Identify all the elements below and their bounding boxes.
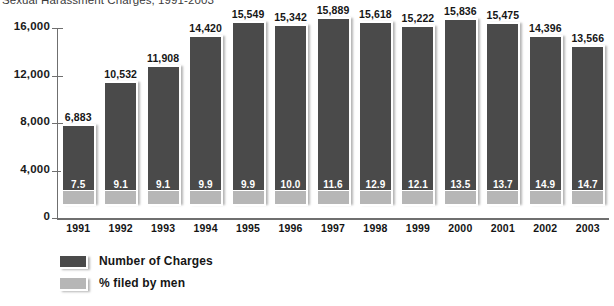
bar-group[interactable]: 13.715,475 <box>485 22 520 218</box>
bar-percent-label: 9.9 <box>241 179 255 190</box>
bar-segment-percent-filed-by-men[interactable] <box>487 190 518 204</box>
y-axis-label: 4,000 <box>4 163 50 175</box>
x-axis-label: 2001 <box>491 222 515 234</box>
x-axis-label: 2003 <box>576 222 600 234</box>
bar-value-label: 10,532 <box>104 68 137 80</box>
bar-value-label: 15,475 <box>486 9 519 21</box>
x-axis-label: 1993 <box>151 222 175 234</box>
bar-value-label: 11,908 <box>147 52 179 64</box>
y-axis-label: 16,000 <box>4 20 50 32</box>
bar-value-label: 14,420 <box>189 22 222 34</box>
bar-column[interactable]: 12.1 <box>400 25 435 206</box>
bar-value-label: 14,396 <box>529 22 562 34</box>
bar-value-label: 6,883 <box>65 111 92 123</box>
bar-segment-number-of-charges[interactable] <box>445 20 476 191</box>
bar-segment-number-of-charges[interactable] <box>360 23 391 191</box>
y-axis-label: 12,000 <box>4 68 50 80</box>
legend-swatch-light-icon <box>58 276 88 291</box>
bar-segment-number-of-charges[interactable] <box>487 24 518 191</box>
x-axis-label: 1992 <box>109 222 133 234</box>
bar-segment-percent-filed-by-men[interactable] <box>572 190 603 204</box>
y-axis-label: 8,000 <box>4 115 50 127</box>
bar-segment-number-of-charges[interactable] <box>530 37 561 191</box>
bar-segment-percent-filed-by-men[interactable] <box>275 190 306 204</box>
bar-percent-label: 11.6 <box>323 179 342 190</box>
bar-column[interactable]: 9.9 <box>188 35 223 206</box>
x-axis-label: 1999 <box>406 222 430 234</box>
bar-segment-percent-filed-by-men[interactable] <box>402 190 433 204</box>
legend-swatch-dark-icon <box>58 254 88 269</box>
x-axis-label: 1991 <box>66 222 90 234</box>
bar-percent-label: 13.7 <box>493 179 513 190</box>
bar-percent-label: 9.9 <box>199 179 213 190</box>
bar-segment-number-of-charges[interactable] <box>233 23 264 191</box>
x-axis-label: 2000 <box>448 222 472 234</box>
bar-segment-percent-filed-by-men[interactable] <box>105 190 136 204</box>
bar-group[interactable]: 14.914,396 <box>528 35 563 218</box>
bar-value-label: 15,618 <box>359 8 392 20</box>
x-axis-label: 2002 <box>533 222 557 234</box>
bar-percent-label: 10.0 <box>281 179 301 190</box>
bar-column[interactable]: 13.5 <box>443 18 478 206</box>
bar-percent-label: 14.7 <box>578 179 598 190</box>
x-axis-label: 1995 <box>236 222 260 234</box>
bar-segment-percent-filed-by-men[interactable] <box>148 190 179 204</box>
bar-group[interactable]: 13.515,836 <box>443 18 478 218</box>
bar-value-label: 15,342 <box>274 11 307 23</box>
bar-column[interactable]: 9.9 <box>231 21 266 206</box>
bar-segment-number-of-charges[interactable] <box>190 37 221 191</box>
bar-group[interactable]: 14.713,566 <box>570 45 605 218</box>
legend-label-percent-filed-by-men: % filed by men <box>99 276 185 290</box>
bar-segment-percent-filed-by-men[interactable] <box>190 190 221 204</box>
bar-column[interactable]: 7.5 <box>61 124 96 206</box>
bar-percent-label: 12.9 <box>366 179 386 190</box>
bar-column[interactable]: 14.9 <box>528 35 563 206</box>
bar-column[interactable]: 11.6 <box>316 17 351 206</box>
bar-percent-label: 12.1 <box>408 179 428 190</box>
bar-percent-label: 14.9 <box>535 179 555 190</box>
bar-segment-percent-filed-by-men[interactable] <box>530 190 561 204</box>
bar-group[interactable]: 7.56,883 <box>61 124 96 218</box>
bar-series-group: 7.56,88319919.110,53219929.111,90819939.… <box>57 0 609 230</box>
x-axis-label: 1994 <box>194 222 218 234</box>
bar-value-label: 13,566 <box>571 32 604 44</box>
bar-segment-percent-filed-by-men[interactable] <box>233 190 264 204</box>
bar-group[interactable]: 12.115,222 <box>400 25 435 218</box>
bar-percent-label: 7.5 <box>71 179 85 190</box>
bar-segment-number-of-charges[interactable] <box>275 26 306 191</box>
bar-group[interactable]: 12.915,618 <box>358 21 393 218</box>
bar-column[interactable]: 12.9 <box>358 21 393 206</box>
bar-group[interactable]: 11.615,889 <box>316 17 351 218</box>
legend-item-number-of-charges: Number of Charges <box>58 250 213 272</box>
x-axis-label: 1997 <box>321 222 345 234</box>
bar-group[interactable]: 9.110,532 <box>103 81 138 218</box>
bar-segment-percent-filed-by-men[interactable] <box>63 190 94 204</box>
bar-value-label: 15,889 <box>317 4 350 16</box>
bar-group[interactable]: 9.915,549 <box>231 21 266 218</box>
bar-value-label: 15,222 <box>402 12 435 24</box>
bar-segment-number-of-charges[interactable] <box>402 27 433 191</box>
bar-group[interactable]: 10.015,342 <box>273 24 308 218</box>
bar-segment-number-of-charges[interactable] <box>148 67 179 191</box>
bar-segment-number-of-charges[interactable] <box>318 19 349 191</box>
bar-group[interactable]: 9.111,908 <box>146 65 181 218</box>
bar-column[interactable]: 13.7 <box>485 22 520 206</box>
bar-percent-label: 13.5 <box>450 179 470 190</box>
bar-segment-percent-filed-by-men[interactable] <box>318 190 349 204</box>
x-axis-label: 1996 <box>278 222 302 234</box>
bar-segment-number-of-charges[interactable] <box>572 47 603 191</box>
chart-container: Sexual Harassment Charges, 1991-2003 04,… <box>0 0 614 306</box>
bar-percent-label: 9.1 <box>114 179 128 190</box>
chart-legend: Number of Charges % filed by men <box>58 250 213 294</box>
bar-column[interactable]: 9.1 <box>146 65 181 206</box>
bar-segment-percent-filed-by-men[interactable] <box>445 190 476 204</box>
bar-value-label: 15,836 <box>444 5 477 17</box>
bar-column[interactable]: 9.1 <box>103 81 138 206</box>
bar-segment-number-of-charges[interactable] <box>105 83 136 191</box>
bar-group[interactable]: 9.914,420 <box>188 35 223 218</box>
bar-segment-percent-filed-by-men[interactable] <box>360 190 391 204</box>
plot-area: 04,0008,00012,00016,000 7.56,88319919.11… <box>0 0 614 230</box>
bar-column[interactable]: 10.0 <box>273 24 308 206</box>
bar-column[interactable]: 14.7 <box>570 45 605 206</box>
legend-item-percent-filed-by-men: % filed by men <box>58 272 213 294</box>
